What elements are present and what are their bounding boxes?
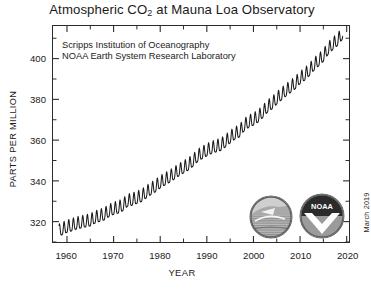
noaa-logo-svg: NOAA — [299, 193, 345, 239]
x-tick-label: 2010 — [280, 250, 322, 261]
date-stamp: March 2019 — [362, 183, 371, 243]
chart-title: Atmospheric CO2 at Mauna Loa Observatory — [0, 2, 364, 17]
x-tick-label: 1990 — [186, 250, 228, 261]
y-tick-label: 320 — [12, 217, 46, 228]
scripps-logo — [249, 195, 293, 239]
x-axis-label: YEAR — [0, 267, 364, 278]
annotation-line-scripps: Scripps Institution of Oceanography — [62, 40, 236, 51]
noaa-logo: NOAA — [299, 193, 345, 239]
source-annotation: Scripps Institution of Oceanography NOAA… — [62, 40, 236, 63]
y-tick-label: 340 — [12, 176, 46, 187]
y-tick-label: 400 — [12, 52, 46, 63]
annotation-line-noaa: NOAA Earth System Research Laboratory — [62, 51, 236, 62]
x-tick-label: 1960 — [45, 250, 87, 261]
x-tick-label: 2020 — [327, 250, 369, 261]
y-tick-label: 360 — [12, 135, 46, 146]
x-tick-label: 1980 — [139, 250, 181, 261]
x-tick-label: 1970 — [92, 250, 134, 261]
chart-title-suffix: at Mauna Loa Observatory — [152, 2, 314, 17]
noaa-logo-text: NOAA — [311, 202, 333, 211]
scripps-logo-svg — [249, 195, 293, 239]
y-major-ticks — [53, 59, 349, 222]
y-tick-label: 380 — [12, 94, 46, 105]
chart-title-prefix: Atmospheric CO — [49, 2, 147, 17]
x-tick-label: 2000 — [233, 250, 275, 261]
chart-title-subscript: 2 — [147, 8, 152, 18]
